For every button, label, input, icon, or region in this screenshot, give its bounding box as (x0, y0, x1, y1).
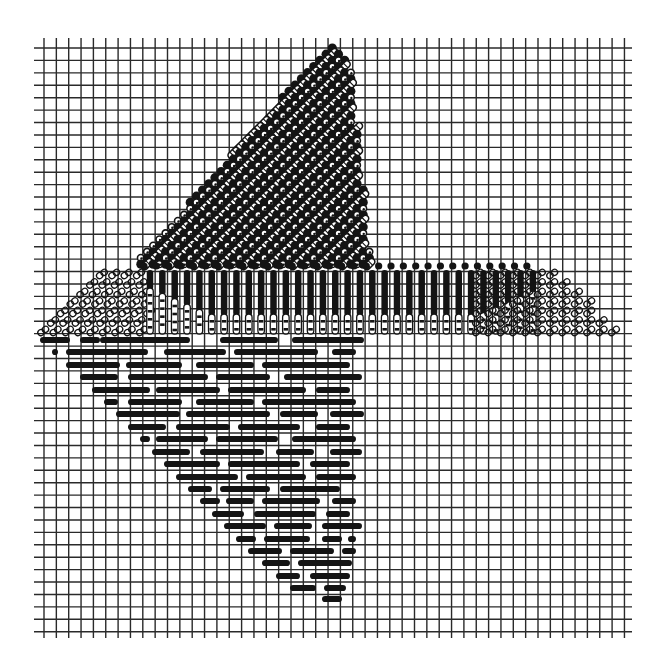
float-bar (228, 387, 306, 393)
float-bar (164, 461, 220, 467)
float-bar (316, 387, 350, 393)
bar-cap-dot (523, 262, 530, 269)
float-bar (322, 523, 362, 529)
vertical-bar (184, 270, 191, 334)
vertical-bar (147, 270, 154, 334)
vertical-bar (332, 270, 339, 334)
float-row (236, 536, 356, 542)
bar-cap-dot (350, 262, 357, 269)
float-bar (66, 362, 120, 368)
float-bar (290, 585, 316, 591)
vertical-bar (357, 270, 364, 334)
vertical-bar (233, 270, 240, 334)
float-bar (316, 424, 350, 430)
bar-cap-dot (375, 262, 382, 269)
float-bar (238, 424, 300, 430)
float-bar (274, 523, 312, 529)
weave-draft-diagram (0, 0, 666, 667)
float-bar (342, 548, 356, 554)
vertical-bar (283, 270, 290, 334)
vertical-bar (159, 270, 166, 334)
vertical-bar (307, 270, 314, 334)
bar-cap-dot (177, 262, 184, 269)
vertical-bar (394, 270, 401, 334)
float-bar (80, 374, 118, 380)
float-bar (310, 573, 350, 579)
bar-cap-dot (165, 262, 172, 269)
float-bar (220, 486, 270, 492)
bar-cap-dot (227, 262, 234, 269)
bar-cap-dot (424, 262, 431, 269)
float-bar (262, 560, 290, 566)
float-bar (176, 424, 230, 430)
float-bar (262, 399, 356, 405)
float-row (262, 560, 352, 566)
float-row (224, 523, 362, 529)
bar-cap-dot (153, 262, 160, 269)
float-bar (200, 449, 264, 455)
float-bar (332, 349, 356, 355)
float-bar (164, 349, 226, 355)
float-bar (262, 362, 350, 368)
float-row (212, 511, 350, 517)
float-bar (310, 461, 350, 467)
float-bar (262, 498, 320, 504)
float-bar (298, 560, 352, 566)
float-bar (276, 573, 300, 579)
float-bar (128, 374, 208, 380)
float-bar (254, 511, 316, 517)
bar-cap-dot (462, 262, 469, 269)
float-bar (280, 411, 318, 417)
float-bar (280, 486, 340, 492)
bar-cap-dot (387, 262, 394, 269)
float-bar (156, 387, 220, 393)
float-row (276, 573, 350, 579)
bar-cap-dot (338, 262, 345, 269)
float-bar (332, 498, 356, 504)
float-bar (226, 498, 254, 504)
float-bar (290, 548, 334, 554)
bar-cap-dot (400, 262, 407, 269)
vertical-bar (196, 270, 203, 334)
float-bar (292, 337, 364, 343)
float-bar (216, 374, 270, 380)
float-bar (324, 585, 346, 591)
float-bar (248, 548, 282, 554)
vertical-bar (344, 270, 351, 334)
float-bar (128, 424, 166, 430)
float-bar (246, 474, 306, 480)
float-bar (140, 436, 150, 442)
bar-cap-dot (412, 262, 419, 269)
float-bar (52, 349, 58, 355)
bar-cap-dot (239, 262, 246, 269)
float-row (176, 474, 356, 480)
float-row (140, 436, 356, 442)
vertical-bar (431, 270, 438, 334)
float-bar (152, 449, 190, 455)
bar-cap-dot (363, 262, 370, 269)
float-bar (234, 349, 318, 355)
float-bar (330, 449, 362, 455)
float-row (164, 461, 350, 467)
float-bar (220, 337, 278, 343)
float-row (66, 362, 350, 368)
float-bar (216, 436, 278, 442)
vertical-bar (295, 270, 302, 334)
bar-cap-dot (202, 262, 209, 269)
bar-cap-dot (140, 262, 147, 269)
bar-cap-dot (289, 262, 296, 269)
float-row (52, 349, 356, 355)
bar-cap-dot (326, 262, 333, 269)
bar-cap-dot (511, 262, 518, 269)
vertical-bar (406, 270, 413, 334)
float-bar (322, 596, 342, 602)
float-bar (276, 449, 314, 455)
float-bar (236, 536, 256, 542)
float-bar (92, 387, 150, 393)
float-row (322, 596, 342, 602)
float-row (104, 399, 356, 405)
float-bar (104, 399, 118, 405)
float-bar (322, 536, 342, 542)
bar-cap-dot (474, 262, 481, 269)
float-bar (116, 411, 180, 417)
